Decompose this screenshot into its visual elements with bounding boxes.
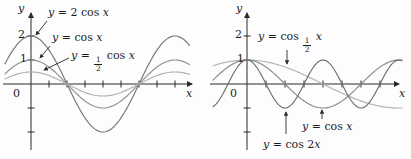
curve-label-cosx: y = cos x [302,120,353,133]
graph-frequency-family: y x 0 2 1 y = cos 12 x y = cos x y = cos… [205,0,411,159]
label-pointer-arrow [36,21,47,35]
x-axis-label: x [399,88,405,100]
label-pointer-arrow [40,46,50,58]
curve-label-halfcosx: y = 12 cos x [71,49,135,73]
curve-label-coshalfx: y = cos 12 x [258,30,322,54]
curve-label-2cosx: y = 2 cos x [48,6,109,19]
label-pointer-arrow [44,58,69,70]
curve-label-cos2x: y = cos 2x [263,138,321,151]
y-tick-label-2: 2 [230,29,242,41]
graph-amplitude-family: y x 0 2 1 y = 2 cos x y = cos x y = 12 c… [0,0,205,159]
x-axis-label: x [186,88,192,100]
origin-label: 0 [225,88,237,100]
graph-right-canvas [205,0,411,159]
origin-label: 0 [8,88,20,100]
cosine-family-figure: y x 0 2 1 y = 2 cos x y = cos x y = 12 c… [0,0,411,159]
curve-label-cosx: y = cos x [52,31,103,44]
y-tick-label-1: 1 [232,53,244,65]
fraction: 12 [303,37,311,54]
graph-left-canvas [0,0,205,159]
y-tick-label-2: 2 [13,29,25,41]
y-axis-label: y [18,3,24,15]
fraction: 12 [94,56,102,73]
y-tick-label-1: 1 [15,53,27,65]
y-axis-label: y [236,3,242,15]
